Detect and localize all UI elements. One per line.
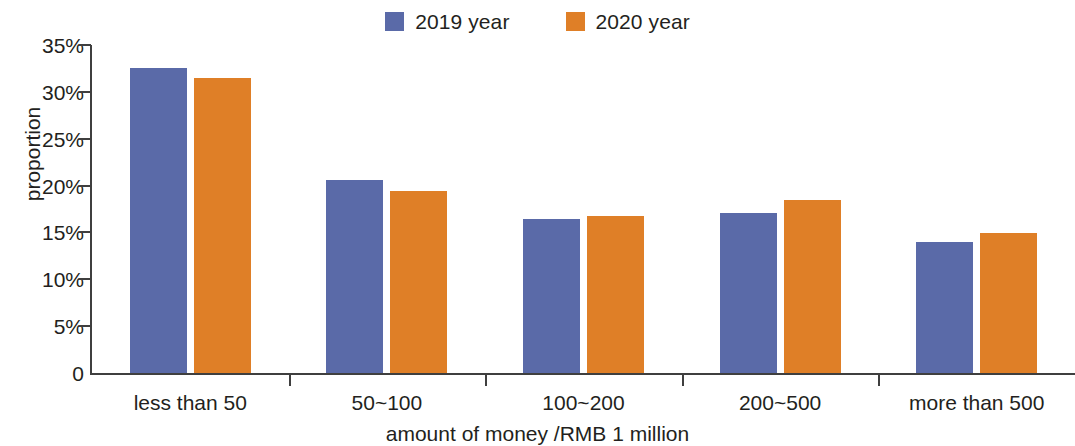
y-tick-label: 20% bbox=[18, 175, 84, 196]
bar-2019-4 bbox=[916, 242, 973, 373]
y-tick-label: 35% bbox=[18, 35, 84, 56]
bar-2020-0 bbox=[194, 78, 251, 373]
x-axis-title: amount of money /RMB 1 million bbox=[0, 423, 1075, 444]
y-tick-label: 15% bbox=[18, 222, 84, 243]
x-tick-label: more than 500 bbox=[909, 392, 1044, 413]
y-tick-label: 0 bbox=[18, 363, 84, 384]
x-tick-label: less than 50 bbox=[134, 392, 247, 413]
y-tick-label: 5% bbox=[18, 316, 84, 337]
bar-2019-3 bbox=[720, 213, 777, 373]
bar-2019-0 bbox=[130, 68, 187, 374]
bar-2020-4 bbox=[980, 233, 1037, 373]
plot-area: proportion 35%30%25%20%15%10%5%0 less th… bbox=[0, 0, 1075, 446]
y-tick-label: 25% bbox=[18, 128, 84, 149]
bar-chart: 2019 year 2020 year proportion 35%30%25%… bbox=[0, 0, 1075, 446]
x-tick-label: 50~100 bbox=[352, 392, 423, 413]
x-axis-tick-labels: less than 5050~100100~200200~500more tha… bbox=[92, 392, 1075, 422]
bar-2019-1 bbox=[326, 180, 383, 373]
bar-2019-2 bbox=[523, 219, 580, 373]
y-axis-tick-labels: 35%30%25%20%15%10%5%0 bbox=[18, 0, 84, 446]
x-tick-label: 200~500 bbox=[739, 392, 821, 413]
bar-2020-2 bbox=[587, 216, 644, 373]
bar-2020-1 bbox=[390, 191, 447, 373]
bars-layer bbox=[92, 0, 1075, 446]
x-tick-label: 100~200 bbox=[542, 392, 624, 413]
y-tick-label: 10% bbox=[18, 269, 84, 290]
bar-2020-3 bbox=[784, 200, 841, 373]
y-tick-label: 30% bbox=[18, 81, 84, 102]
